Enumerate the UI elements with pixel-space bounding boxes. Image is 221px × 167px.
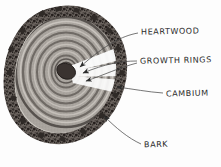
tree-diagram: [0, 0, 221, 167]
trunk-disc: [0, 0, 221, 167]
label-growth-rings: GROWTH RINGS: [140, 55, 212, 66]
leader-line-bark: [104, 116, 141, 144]
label-cambium: CAMBIUM: [166, 89, 209, 99]
label-heartwood: HEARTWOOD: [141, 26, 200, 36]
tree-cross-section-figure: HEARTWOOD GROWTH RINGS CAMBIUM BARK: [0, 0, 221, 167]
leader-line-cambium: [117, 87, 163, 93]
label-bark: BARK: [144, 140, 168, 150]
